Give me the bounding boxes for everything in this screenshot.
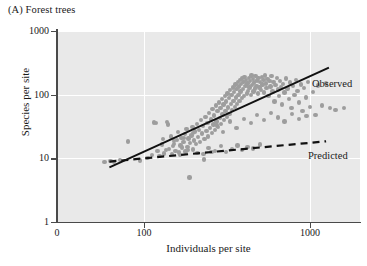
y-tick-label: 1	[44, 217, 49, 227]
y-tick-label: 10	[39, 153, 49, 163]
panel-label: (A) Forest trees	[8, 4, 76, 15]
series-line-predicted	[109, 141, 326, 161]
plot-area	[57, 31, 360, 222]
y-tick	[51, 95, 56, 96]
x-axis-line	[56, 222, 361, 224]
x-tick-label: 1000	[300, 228, 320, 238]
series-line-observed	[109, 68, 329, 168]
y-tick-label: 100	[34, 90, 49, 100]
y-axis-title: Species per site	[19, 47, 31, 157]
figure-panel: (A) Forest trees 1101001000 01001000 Spe…	[0, 0, 367, 266]
x-tick-label: 100	[136, 228, 151, 238]
x-tick-label: 0	[55, 228, 60, 238]
y-tick-label: 1000	[29, 26, 49, 36]
x-axis-title: Individuals per site	[57, 242, 360, 254]
y-tick	[51, 158, 56, 159]
series-label-observed: Observed	[312, 78, 352, 89]
y-axis-line	[56, 29, 58, 223]
y-tick	[51, 222, 56, 223]
series-label-predicted: Predicted	[308, 150, 348, 161]
y-tick	[51, 31, 56, 32]
series-lines	[57, 31, 360, 222]
